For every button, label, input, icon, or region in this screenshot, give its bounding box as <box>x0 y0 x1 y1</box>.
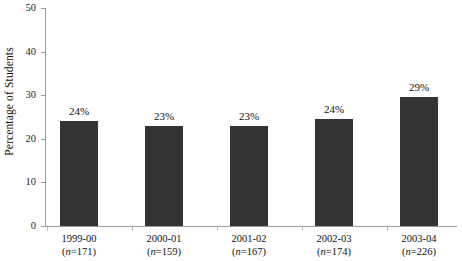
category-sample-size: (n=167) <box>210 245 288 258</box>
bar-series: 24%23%23%24%29% <box>0 0 462 226</box>
bar-chart: Percentage of Students 01020304050 24%23… <box>0 0 462 261</box>
bar-column[interactable]: 23% <box>230 0 268 226</box>
x-tick-mark <box>302 227 303 231</box>
bar-column[interactable]: 29% <box>400 0 438 226</box>
x-tick-mark <box>217 227 218 231</box>
bar[interactable] <box>60 121 98 226</box>
bar[interactable] <box>315 119 353 226</box>
x-tick-mark <box>47 227 48 231</box>
category-sample-size: (n=171) <box>40 245 118 258</box>
sample-size-n-symbol: n <box>236 246 241 257</box>
x-axis-category-label: 2000-01(n=159) <box>125 232 203 258</box>
category-period: 2003-04 <box>380 232 458 245</box>
sample-size-n-symbol: n <box>321 246 326 257</box>
bar-value-label: 23% <box>216 110 282 123</box>
x-axis-category-label: 2001-02(n=167) <box>210 232 288 258</box>
sample-size-n-symbol: n <box>406 246 411 257</box>
category-sample-size: (n=159) <box>125 245 203 258</box>
x-tick-mark <box>387 227 388 231</box>
category-period: 2000-01 <box>125 232 203 245</box>
category-period: 2001-02 <box>210 232 288 245</box>
x-axis-category-label: 2002-03(n=174) <box>295 232 373 258</box>
bar-column[interactable]: 23% <box>145 0 183 226</box>
bar-value-label: 29% <box>386 81 452 94</box>
category-sample-size: (n=174) <box>295 245 373 258</box>
x-axis-category-label: 1999-00(n=171) <box>40 232 118 258</box>
bar-column[interactable]: 24% <box>60 0 98 226</box>
bar[interactable] <box>230 126 268 226</box>
y-tick-mark <box>41 226 45 227</box>
bar-value-label: 24% <box>301 103 367 116</box>
sample-size-n-symbol: n <box>151 246 156 257</box>
bar-value-label: 23% <box>131 110 197 123</box>
x-axis-line <box>45 226 457 227</box>
sample-size-n-symbol: n <box>66 246 71 257</box>
bar[interactable] <box>145 126 183 226</box>
bar[interactable] <box>400 97 438 226</box>
x-axis-category-label: 2003-04(n=226) <box>380 232 458 258</box>
category-sample-size: (n=226) <box>380 245 458 258</box>
x-tick-mark <box>132 227 133 231</box>
category-period: 2002-03 <box>295 232 373 245</box>
bar-column[interactable]: 24% <box>315 0 353 226</box>
category-period: 1999-00 <box>40 232 118 245</box>
bar-value-label: 24% <box>46 105 112 118</box>
